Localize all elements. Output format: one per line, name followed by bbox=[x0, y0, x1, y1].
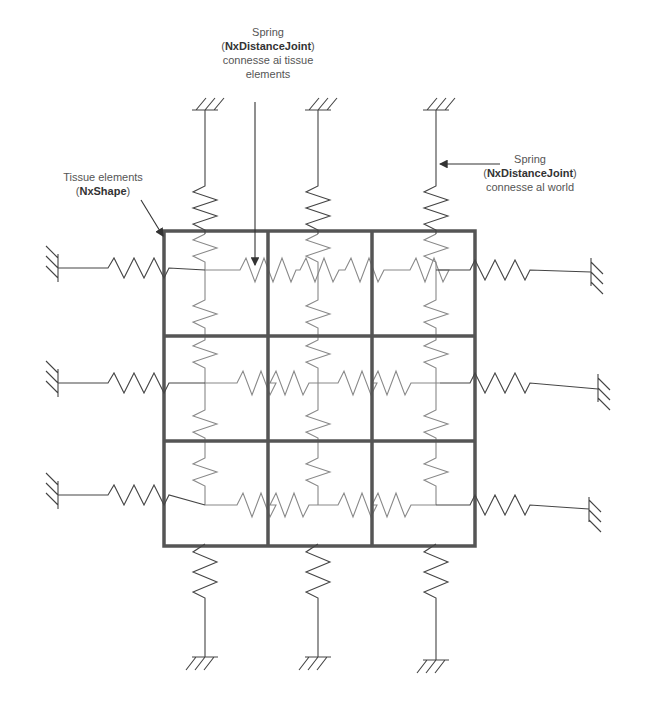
label-spring-tissue: Spring (NxDistanceJoint) connesse ai tis… bbox=[208, 25, 328, 81]
label-line: Spring bbox=[208, 25, 328, 39]
label-line: Spring bbox=[470, 152, 590, 166]
ground-anchors-left bbox=[46, 246, 58, 509]
label-line: (NxDistanceJoint) bbox=[208, 39, 328, 53]
label-line: connesse ai tissue bbox=[208, 53, 328, 67]
label-line: connesse al world bbox=[470, 180, 590, 194]
world-springs-right bbox=[436, 260, 598, 515]
world-springs-bottom bbox=[193, 544, 448, 660]
world-springs-top bbox=[193, 110, 448, 234]
label-line: Tissue elements bbox=[48, 170, 158, 184]
spring-mesh-diagram bbox=[0, 0, 647, 723]
label-line: elements bbox=[208, 67, 328, 81]
arrow-tissue-element bbox=[141, 200, 163, 236]
label-line: (NxShape) bbox=[48, 184, 158, 198]
label-spring-world: Spring (NxDistanceJoint) connesse al wor… bbox=[470, 152, 590, 194]
diagram-canvas: Spring (NxDistanceJoint) connesse ai tis… bbox=[0, 0, 647, 723]
ground-anchors-right bbox=[589, 258, 610, 532]
internal-horizontal-springs bbox=[205, 258, 449, 517]
label-tissue-elements: Tissue elements (NxShape) bbox=[48, 170, 158, 198]
internal-vertical-springs bbox=[193, 234, 448, 505]
ground-anchors-bottom bbox=[186, 657, 449, 673]
world-springs-left bbox=[58, 258, 205, 505]
ground-anchors-top bbox=[192, 98, 455, 110]
label-line: (NxDistanceJoint) bbox=[470, 166, 590, 180]
tissue-elements-grid bbox=[164, 231, 475, 546]
